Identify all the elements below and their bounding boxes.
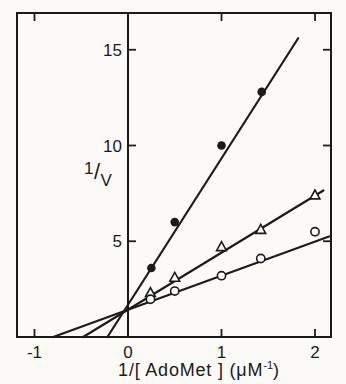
data-point-open-triangle [217,242,227,251]
x-axis-label-exponent: -1 [263,359,273,371]
data-point-open-circle [171,287,179,295]
data-point-filled-circle [217,141,226,150]
data-point-filled-circle [257,88,266,97]
data-point-open-circle [311,228,319,236]
x-axis-label-main: 1/[ AdoMet ] [118,360,224,380]
data-point-filled-circle [147,264,156,273]
data-point-open-circle [217,272,225,280]
plot-canvas: 51015-1012 [0,0,346,384]
y-axis-label-denominator: V [101,171,113,190]
y-tick-label: 5 [113,232,122,251]
open-circle-series-line [53,236,329,337]
data-point-open-circle [146,295,154,303]
x-axis-label: 1/[ AdoMet ] (μM-1) [26,359,346,381]
open-triangle-series-line [83,191,323,337]
y-tick-label: 10 [103,137,122,156]
x-axis-label-unit: μM [236,360,263,380]
x-axis-label-close-paren: ) [273,360,280,380]
lineweaver-burk-figure: 51015-1012 1/V 1/[ AdoMet ] (μM-1) [0,0,346,384]
data-point-filled-circle [170,218,179,227]
x-axis-label-open-paren: ( [224,360,237,380]
y-axis-label-slash: / [94,159,101,184]
y-tick-label: 15 [103,41,122,60]
data-point-open-triangle [170,272,180,281]
y-axis-label: 1/V [84,161,112,187]
data-point-open-circle [257,254,265,262]
filled-circle-series-line [107,38,298,337]
y-axis-label-numerator: 1 [84,159,94,178]
